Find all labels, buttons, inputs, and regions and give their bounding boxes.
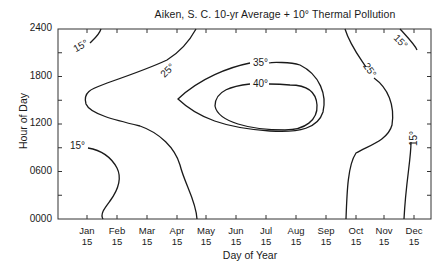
contour-40 bbox=[215, 84, 317, 130]
x-tick-sep: Sep15 bbox=[311, 225, 341, 247]
label-15-topleft: 15° bbox=[71, 37, 90, 54]
contour-25-upper bbox=[85, 29, 196, 126]
x-tick-jun: Jun15 bbox=[221, 225, 251, 247]
x-tick-oct: Oct15 bbox=[341, 225, 371, 247]
x-tick-apr: Apr15 bbox=[162, 225, 192, 247]
contour-25-lower bbox=[140, 126, 197, 219]
contour-15-right-bottom bbox=[404, 142, 411, 219]
contour-15-lowerleft bbox=[88, 148, 119, 219]
x-tick-aug: Aug15 bbox=[281, 225, 311, 247]
label-15-righttop: 15° bbox=[392, 32, 410, 50]
label-35: 35° bbox=[253, 57, 268, 68]
plot-frame bbox=[58, 29, 431, 219]
x-tick-may: May15 bbox=[191, 225, 221, 247]
x-tick-jul: Jul15 bbox=[251, 225, 281, 247]
x-axis-label: Day of Year bbox=[200, 249, 300, 261]
label-15-lowerleft: 15° bbox=[70, 140, 85, 151]
x-tick-nov: Nov15 bbox=[369, 225, 399, 247]
contour-25-right-top bbox=[345, 29, 366, 67]
contour-15-topleft bbox=[90, 29, 101, 43]
x-tick-jan: Jan15 bbox=[72, 225, 102, 247]
contour-35 bbox=[178, 62, 324, 131]
x-tick-feb: Feb15 bbox=[102, 225, 132, 247]
label-25-left: 25° bbox=[158, 61, 176, 79]
label-40: 40° bbox=[253, 78, 268, 89]
x-tick-dec: Dec15 bbox=[399, 225, 429, 247]
x-tick-mar: Mar15 bbox=[132, 225, 162, 247]
label-15-rightmid: 15° bbox=[408, 131, 419, 146]
x-axis-ticks bbox=[87, 29, 414, 219]
contour-25-right-bottom bbox=[346, 78, 393, 219]
